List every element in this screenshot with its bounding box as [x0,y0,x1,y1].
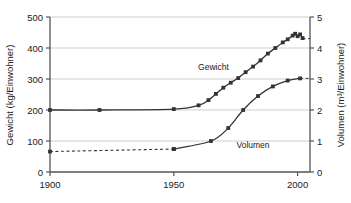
data-point-marker [273,46,277,50]
data-point-marker [298,32,302,36]
data-point-marker [226,126,230,130]
y-axis-title-right: Volumen (m³/Einwohner) [335,43,346,148]
y-tick-label-left: 100 [27,136,43,147]
data-point-marker [298,76,302,80]
data-point-marker [286,79,290,83]
x-tick-label: 1900 [39,179,60,190]
y-tick-label-right: 1 [317,136,322,147]
data-point-marker [48,150,52,154]
data-point-marker [172,147,176,151]
data-point-marker [281,41,285,45]
data-point-marker [271,85,275,89]
series-label-gewicht: Gewicht [198,62,229,72]
data-point-marker [244,70,248,74]
y-axis-title-left: Gewicht (kg/Einwohner) [4,45,15,146]
data-point-marker [301,36,305,40]
y-tick-label-left: 200 [27,105,43,116]
line-chart: 0100200300400500012345190019502000 Gewic… [0,0,351,203]
data-point-marker [259,59,263,63]
data-point-marker [256,94,260,98]
y-tick-label-right: 4 [317,43,322,54]
y-tick-label-right: 3 [317,74,322,85]
data-point-marker [207,98,211,102]
data-point-marker [266,52,270,56]
x-tick-label: 1950 [163,179,184,190]
y-tick-label-left: 300 [27,74,43,85]
data-point-marker [209,139,213,143]
y-tick-label-left: 0 [38,167,43,178]
data-point-marker [172,107,176,111]
data-point-marker [241,108,245,112]
chart-container: 0100200300400500012345190019502000 Gewic… [0,0,351,203]
y-tick-label-right: 0 [317,167,322,178]
data-point-marker [286,37,290,41]
series-label-volumen: Volumen [237,140,270,150]
y-tick-label-right: 2 [317,105,322,116]
data-point-marker [221,86,225,90]
data-point-marker [214,92,218,96]
data-point-marker [236,76,240,80]
data-point-marker [98,108,102,112]
y-tick-label-left: 400 [27,43,43,54]
data-point-marker [229,81,233,85]
data-point-marker [197,103,201,107]
y-tick-label-right: 5 [317,12,322,23]
data-point-marker [48,108,52,112]
data-point-marker [251,65,255,69]
x-tick-label: 2000 [287,179,308,190]
y-tick-label-left: 500 [27,12,43,23]
